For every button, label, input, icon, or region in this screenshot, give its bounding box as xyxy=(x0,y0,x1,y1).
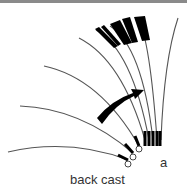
panel-label: a xyxy=(160,155,167,170)
figure-caption: back cast xyxy=(0,172,187,187)
rod-4 xyxy=(79,38,145,140)
reel-icon xyxy=(125,161,131,167)
back-cast-diagram xyxy=(0,0,187,192)
rod-5 xyxy=(96,30,149,140)
handle-3 xyxy=(135,136,139,146)
rod-3 xyxy=(44,66,139,146)
rod-8 xyxy=(161,18,178,140)
reel-icon xyxy=(136,146,142,152)
rod-1 xyxy=(8,147,128,160)
reel-icon xyxy=(130,154,136,160)
handle-2 xyxy=(125,144,133,153)
